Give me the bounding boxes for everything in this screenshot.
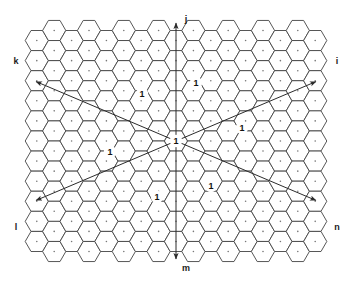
- hexagon-center-dot: [193, 211, 195, 213]
- hexagon-center-dot: [193, 110, 195, 112]
- hexagon-center-dot: [280, 180, 282, 182]
- hexagon-center-dot: [227, 70, 229, 72]
- hexagon-center-dot: [71, 241, 73, 243]
- hexagon-center-dot: [262, 211, 264, 213]
- hexagon-center-dot: [106, 221, 108, 223]
- hexagon-center-dot: [210, 241, 212, 243]
- cochannel-cell-label: 1: [154, 192, 159, 202]
- hexagon-center-dot: [106, 140, 108, 142]
- hexagon-center-dot: [123, 251, 125, 253]
- hexagon-center-dot: [71, 160, 73, 162]
- hexagon-center-dot: [210, 200, 212, 202]
- hexagon-center-dot: [71, 140, 73, 142]
- hexagon-center-dot: [123, 190, 125, 192]
- hexagon-center-dot: [210, 160, 212, 162]
- hexagon-center-dot: [36, 120, 38, 122]
- hexagon-center-dot: [245, 241, 247, 243]
- hexagon-center-dot: [53, 130, 55, 132]
- hexagon-center-dot: [262, 70, 264, 72]
- diagram-canvas: 1111111 jinmlk: [0, 0, 352, 284]
- hexagon-center-dot: [297, 70, 299, 72]
- hexagon-center-dot: [36, 241, 38, 243]
- hexagon-center-dot: [245, 100, 247, 102]
- hexagon-center-dot: [297, 30, 299, 32]
- hexagon-center-dot: [193, 231, 195, 233]
- hexagon-center-dot: [158, 70, 160, 72]
- hexagon-center-dot: [280, 40, 282, 42]
- hexagon-center-dot: [88, 170, 90, 172]
- hexagon-center-dot: [262, 170, 264, 172]
- hexagon-center-dot: [158, 90, 160, 92]
- axis-label-l: l: [15, 222, 18, 232]
- axis-label-m: m: [182, 263, 190, 273]
- hexagon-center-dot: [88, 211, 90, 213]
- cochannel-cell-label: 1: [208, 181, 213, 191]
- hexagon-center-dot: [140, 241, 142, 243]
- hexagon-center-dot: [262, 90, 264, 92]
- hexagon-center-dot: [71, 60, 73, 62]
- hexagon-center-dot: [158, 150, 160, 152]
- hexagon-center-dot: [193, 251, 195, 253]
- hexagon-center-dot: [314, 40, 316, 42]
- hexagon-center-dot: [123, 90, 125, 92]
- hexagon-center-dot: [297, 190, 299, 192]
- hexagon-center-dot: [314, 221, 316, 223]
- hexagon-center-dot: [227, 150, 229, 152]
- hexagon-center-dot: [88, 130, 90, 132]
- hexagon-center-dot: [262, 190, 264, 192]
- hexagon-center-dot: [210, 40, 212, 42]
- hexagon-center-dot: [123, 130, 125, 132]
- hexagon-center-dot: [106, 200, 108, 202]
- hexagon-center-dot: [53, 170, 55, 172]
- hexagon-center-dot: [140, 60, 142, 62]
- hexagon-center-dot: [297, 50, 299, 52]
- hexagon-center-dot: [140, 140, 142, 142]
- hexagon-center-dot: [314, 120, 316, 122]
- hexagon-center-dot: [158, 30, 160, 32]
- hexagon-center-dot: [71, 100, 73, 102]
- hexagon-center-dot: [140, 221, 142, 223]
- hexagon-center-dot: [262, 231, 264, 233]
- hexagon-center-dot: [193, 50, 195, 52]
- hexagon-center-dot: [53, 231, 55, 233]
- hexagon-center-dot: [210, 100, 212, 102]
- hexagon-center-dot: [297, 110, 299, 112]
- hexagon-center-dot: [71, 180, 73, 182]
- hexagon-center-dot: [227, 90, 229, 92]
- center-cell-label: 1: [173, 136, 178, 146]
- hexagon-center-dot: [193, 130, 195, 132]
- hexagon-center-dot: [262, 110, 264, 112]
- hexagon-center-dot: [140, 200, 142, 202]
- hexagon-center-dot: [53, 150, 55, 152]
- hexagon-center-dot: [280, 120, 282, 122]
- hexagon-center-dot: [158, 50, 160, 52]
- cochannel-cell-label: 1: [107, 147, 112, 157]
- hexagon-center-dot: [314, 60, 316, 62]
- hexagon-center-dot: [53, 90, 55, 92]
- hexagon-center-dot: [158, 231, 160, 233]
- axis-label-n: n: [334, 222, 340, 232]
- hexagon-center-dot: [210, 120, 212, 122]
- hexagon-center-dot: [53, 251, 55, 253]
- hexagon-center-dot: [297, 211, 299, 213]
- cochannel-cell-label: 1: [139, 89, 144, 99]
- hexagon-center-dot: [297, 130, 299, 132]
- axis-label-i: i: [336, 56, 339, 66]
- hexagon-center-dot: [140, 80, 142, 82]
- hexagon-center-dot: [314, 160, 316, 162]
- hexagon-center-dot: [158, 130, 160, 132]
- hexagon-center-dot: [314, 180, 316, 182]
- hexagon-center-dot: [123, 150, 125, 152]
- hexagon-center-dot: [88, 90, 90, 92]
- hexagon-center-dot: [280, 100, 282, 102]
- hexagon-center-dot: [210, 80, 212, 82]
- hexagon-center-dot: [280, 241, 282, 243]
- hexagon-center-dot: [262, 30, 264, 32]
- hexagon-center-dot: [280, 160, 282, 162]
- hexagon-center-dot: [106, 160, 108, 162]
- hexagon-center-dot: [123, 30, 125, 32]
- hexagon-center-dot: [36, 180, 38, 182]
- hexagon-center-dot: [210, 140, 212, 142]
- hexagon-center-dot: [123, 50, 125, 52]
- hexagonal-grid-figure: 1111111 jinmlk: [0, 0, 352, 284]
